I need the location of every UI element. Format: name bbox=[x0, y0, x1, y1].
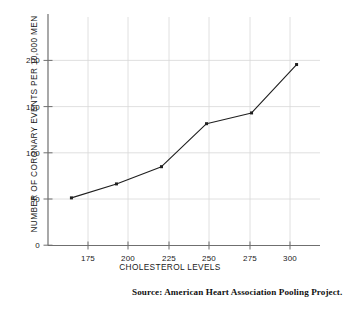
source-caption: Source: American Heart Association Pooli… bbox=[132, 287, 350, 297]
data-series-line bbox=[71, 65, 296, 198]
y-tick-label-0: 0 bbox=[35, 241, 40, 250]
data-point-300 bbox=[295, 63, 298, 66]
data-point-markers bbox=[70, 63, 298, 199]
grid-lines-vertical bbox=[88, 17, 290, 245]
data-point-200 bbox=[115, 182, 118, 185]
data-point-225 bbox=[160, 165, 163, 168]
grid-lines-horizontal bbox=[48, 60, 320, 199]
data-point-175 bbox=[70, 196, 73, 199]
data-point-250 bbox=[205, 122, 208, 125]
data-point-275 bbox=[250, 111, 253, 114]
y-tick-label-150: 150 bbox=[26, 103, 40, 112]
chart-figure: NUMBER OF CORONARY EVENTS PER 10,000 MEN bbox=[0, 0, 351, 310]
y-tick-label-100: 100 bbox=[26, 149, 40, 158]
y-tick-label-200: 200 bbox=[26, 56, 40, 65]
y-tick-label-50: 50 bbox=[31, 195, 41, 204]
x-axis-title: CHOLESTEROL LEVELS bbox=[40, 262, 300, 272]
